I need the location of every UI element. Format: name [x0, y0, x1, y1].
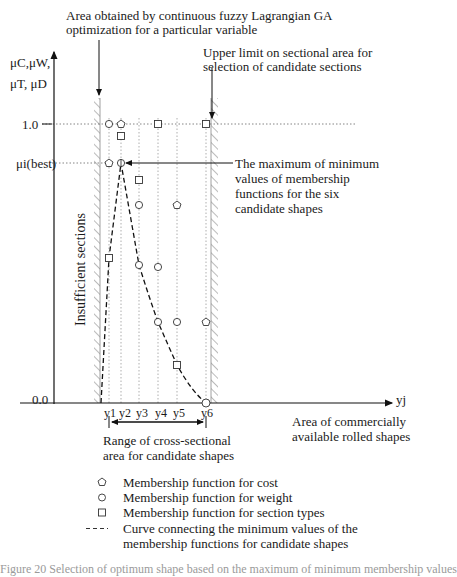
pentagon-icon [95, 475, 109, 490]
x-axis-symbol: yj [396, 392, 406, 407]
max-min-label-line3: functions for the six [235, 186, 339, 201]
x-axis-label-line1: Area of commercially [292, 414, 406, 429]
range-label-line2: area for candidate shapes [103, 448, 234, 463]
square-icon [95, 505, 109, 520]
max-min-label-line4: candidate shapes [235, 201, 323, 216]
circle-icon [95, 490, 109, 505]
upper-limit-label-line1: Upper limit on sectional area for [203, 45, 372, 60]
x-tick-y6: y6 [201, 406, 213, 421]
ga-area-label-line1: Area obtained by continuous fuzzy Lagran… [66, 8, 332, 23]
x-tick-y2: y2 [119, 406, 131, 421]
insufficient-sections-label: Insufficient sections [73, 213, 89, 326]
tick-best-label: μi(best) [16, 156, 56, 171]
tick-zero-label: 0.0 [32, 392, 48, 407]
insufficient-hatch-band [94, 98, 100, 403]
dashed-line-icon [86, 521, 108, 536]
range-label-line1: Range of cross-sectional [103, 433, 231, 448]
max-min-label-line1: The maximum of minimum [235, 156, 379, 171]
max-min-label-line2: values of membership [235, 171, 350, 186]
y-axis-label-line2: μT, μD [10, 76, 47, 91]
y-axis-label-line1: μC,μW, [10, 55, 50, 70]
x-axis-label-line2: available rolled shapes [292, 429, 410, 444]
x-tick-y1: y1 [104, 406, 116, 421]
ga-area-label-line2: optimization for a particular variable [66, 22, 257, 37]
upper-limit-hatch-band [211, 98, 218, 403]
x-tick-y3: y3 [136, 406, 148, 421]
figure-caption-partial: Figure 20 Selection of optimum shape bas… [0, 562, 457, 577]
x-tick-y5: y5 [173, 406, 185, 421]
upper-limit-label-line2: selection of candidate sections [203, 59, 361, 74]
x-tick-y4: y4 [155, 406, 167, 421]
tick-one-label: 1.0 [22, 117, 38, 132]
min-values-curve [101, 163, 206, 403]
